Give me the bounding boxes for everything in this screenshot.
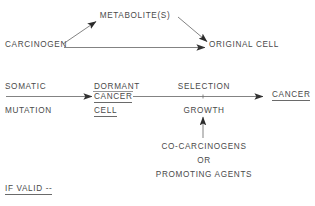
node-cancer-cell-line3: CELL <box>94 107 117 117</box>
node-growth: GROWTH <box>183 107 224 115</box>
node-cancer-cell-line2: CANCER <box>94 93 132 103</box>
node-if-valid: IF VALID -- <box>5 185 52 195</box>
node-co-carcinogens: CO-CARCINOGENS <box>161 143 246 151</box>
node-original-cell: ORIGINAL CELL <box>209 41 279 49</box>
edge-carcinogen-to-metabolites <box>63 22 96 45</box>
node-promoting-agents: PROMOTING AGENTS <box>156 171 252 179</box>
node-or: OR <box>197 157 211 165</box>
node-cancer: CANCER <box>272 91 310 101</box>
node-metabolites: METABOLITE(S) <box>100 12 171 20</box>
node-mutation: MUTATION <box>5 107 52 115</box>
node-selection: SELECTION <box>178 83 230 91</box>
edge-metabolites-to-original-cell <box>178 17 207 42</box>
node-dormant: DORMANT <box>94 83 140 91</box>
node-somatic: SOMATIC <box>5 83 46 91</box>
diagram-canvas: METABOLITE(S) CARCINOGEN ORIGINAL CELL S… <box>0 0 315 206</box>
node-carcinogen: CARCINOGEN <box>5 41 67 49</box>
